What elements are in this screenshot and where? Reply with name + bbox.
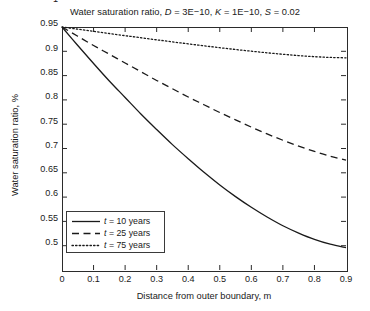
legend-item[interactable]: t = 25 years (71, 227, 160, 239)
legend-label: t = 25 years (101, 228, 150, 238)
x-axis-tick-labels: 00.10.20.30.40.50.60.70.80.9 (62, 274, 346, 288)
y-tick-label: 0.9 (16, 43, 58, 53)
y-tick-label: 0.8 (16, 91, 58, 101)
y-tick-label: 0.7 (16, 140, 58, 150)
legend-line-swatch (71, 228, 101, 239)
y-tick-label: 0.65 (16, 164, 58, 174)
legend-label-text: = 10 years (106, 216, 150, 226)
legend-line-swatch (71, 216, 101, 227)
legend-line-swatch (71, 240, 101, 251)
chart-title-s-value: = 0.02 (271, 7, 300, 17)
y-tick-label: 0.75 (16, 116, 58, 126)
y-tick-label: 1 (16, 0, 58, 4)
y-tick-label: 0.85 (16, 67, 58, 77)
figure-container: Water saturation ratio, D = 3E−10, K = 1… (0, 0, 370, 311)
legend-label-text: = 75 years (106, 240, 150, 250)
series-line-2 (62, 27, 346, 160)
chart-title-d-value: = 3E−10, (172, 7, 213, 17)
x-tick-label: 0.9 (326, 274, 366, 284)
legend-item[interactable]: t = 75 years (71, 239, 160, 251)
series-line-3 (62, 27, 346, 58)
y-tick-label: 0.95 (16, 18, 58, 28)
chart-title-d-symbol: D (165, 7, 172, 17)
legend-label: t = 75 years (101, 240, 150, 250)
y-tick-label: 0.5 (16, 237, 58, 247)
legend-label-text: = 25 years (106, 228, 150, 238)
y-tick-label: 0.6 (16, 188, 58, 198)
chart-title-main: Water saturation ratio, (70, 7, 162, 17)
chart-legend: t = 10 yearst = 25 yearst = 75 years (66, 211, 165, 253)
chart-title-k-value: = 1E−10, (221, 7, 262, 17)
legend-item[interactable]: t = 10 years (71, 215, 160, 227)
y-axis-tick-labels: 0.50.550.60.650.70.750.80.850.90.951 (14, 0, 58, 243)
legend-label: t = 10 years (101, 216, 150, 226)
x-axis-label: Distance from outer boundary, m (62, 291, 346, 301)
y-tick-label: 0.55 (16, 213, 58, 223)
